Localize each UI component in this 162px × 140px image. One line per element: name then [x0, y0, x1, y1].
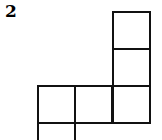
grid-cell: [112, 85, 151, 124]
grid-cell: [37, 85, 76, 124]
grid-cell: [112, 11, 151, 50]
grid-cell: [74, 85, 113, 124]
grid-cell: [112, 48, 151, 87]
grid-cell: [37, 122, 76, 140]
figure-label: 2: [5, 3, 17, 20]
